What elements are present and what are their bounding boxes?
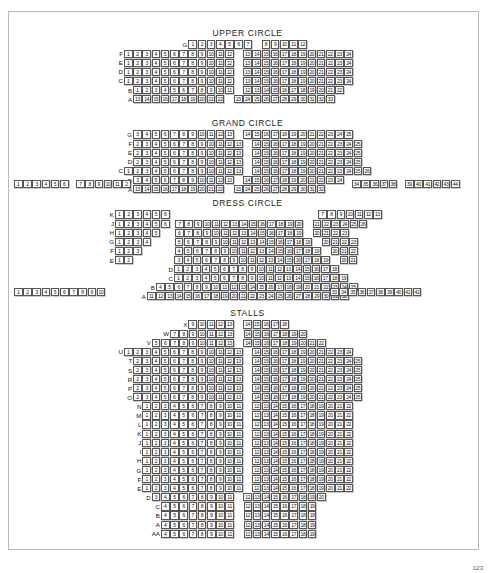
seat[interactable]: 19 (298, 77, 307, 85)
seat[interactable]: 16 (276, 238, 285, 246)
seat[interactable]: 8 (207, 420, 216, 428)
seat[interactable]: 11 (216, 50, 225, 58)
seat[interactable]: 18 (308, 430, 317, 438)
seat[interactable]: 15 (262, 393, 271, 401)
seat[interactable]: 44 (451, 180, 460, 188)
seat[interactable]: 21 (308, 339, 317, 347)
seat[interactable]: 18 (330, 274, 339, 282)
seat[interactable]: 13 (373, 210, 382, 218)
seat[interactable]: 3 (142, 59, 151, 67)
seat[interactable]: 3 (142, 140, 151, 148)
seat[interactable]: 20 (230, 292, 239, 300)
seat[interactable]: 4 (156, 283, 165, 291)
seat[interactable]: 4 (216, 40, 225, 48)
seat[interactable]: 1 (174, 265, 183, 273)
seat[interactable]: 23 (335, 366, 344, 374)
seat[interactable]: 2 (124, 220, 133, 228)
seat[interactable]: 10 (280, 40, 289, 48)
seat[interactable]: 19 (294, 229, 303, 237)
seat[interactable]: 21 (207, 185, 216, 193)
seat[interactable]: 10 (211, 283, 220, 291)
seat[interactable]: 3 (142, 68, 151, 76)
seat[interactable]: 14 (293, 274, 302, 282)
seat[interactable]: 18 (179, 95, 188, 103)
seat[interactable]: 41 (423, 180, 432, 188)
seat[interactable]: 3 (142, 167, 151, 175)
seat[interactable]: 19 (317, 439, 326, 447)
seat[interactable]: 15 (280, 484, 289, 492)
seat[interactable]: 3 (32, 180, 41, 188)
seat[interactable]: 6 (170, 59, 179, 67)
seat[interactable]: 10 (257, 274, 266, 282)
seat[interactable]: 9 (216, 475, 225, 483)
seat[interactable]: 11 (234, 420, 243, 428)
seat[interactable]: 20 (308, 50, 317, 58)
seat[interactable]: 14 (252, 140, 261, 148)
seat[interactable]: 22 (344, 475, 353, 483)
seat[interactable]: 13 (234, 149, 243, 157)
seat[interactable]: 13 (234, 140, 243, 148)
seat[interactable]: 12 (364, 210, 373, 218)
seat[interactable]: 1 (124, 59, 133, 67)
seat[interactable]: 16 (271, 158, 280, 166)
seat[interactable]: 12 (216, 339, 225, 347)
seat[interactable]: 19 (188, 95, 197, 103)
seat[interactable]: 7 (189, 511, 198, 519)
seat[interactable]: 6 (188, 484, 197, 492)
seat[interactable]: 8 (198, 493, 207, 501)
seat[interactable]: 30 (298, 95, 307, 103)
seat[interactable]: 20 (331, 247, 340, 255)
seat[interactable]: 19 (317, 466, 326, 474)
seat[interactable]: 7 (179, 348, 188, 356)
seat[interactable]: 12 (225, 68, 234, 76)
seat[interactable]: 16 (267, 229, 276, 237)
seat[interactable]: 3 (142, 393, 151, 401)
seat[interactable]: 23 (234, 95, 243, 103)
seat[interactable]: 4 (152, 348, 161, 356)
seat[interactable]: 4 (152, 384, 161, 392)
seat[interactable]: 12 (252, 402, 261, 410)
seat[interactable]: 1 (142, 457, 151, 465)
seat[interactable]: 20 (308, 375, 317, 383)
seat[interactable]: 19 (289, 176, 298, 184)
seat[interactable]: 8 (179, 130, 188, 138)
seat[interactable]: 7 (175, 220, 184, 228)
seat[interactable]: 14 (252, 384, 261, 392)
seat[interactable]: 6 (188, 475, 197, 483)
seat[interactable]: 14 (243, 130, 252, 138)
seat[interactable]: 1 (115, 256, 124, 264)
seat[interactable]: 10 (221, 238, 230, 246)
seat[interactable]: 40 (414, 180, 423, 188)
seat[interactable]: 8 (238, 274, 247, 282)
seat[interactable]: 2 (124, 238, 133, 246)
seat[interactable]: 8 (188, 59, 197, 67)
seat[interactable]: 15 (262, 357, 271, 365)
seat[interactable]: 9 (216, 457, 225, 465)
seat[interactable]: 5 (211, 274, 220, 282)
seat[interactable]: 7 (244, 40, 253, 48)
seat[interactable]: 25 (276, 292, 285, 300)
seat[interactable]: 21 (317, 59, 326, 67)
seat[interactable]: 11 (207, 320, 216, 328)
seat[interactable]: 20 (317, 493, 326, 501)
seat[interactable]: 10 (207, 348, 216, 356)
seat[interactable]: 18 (330, 265, 339, 273)
seat[interactable]: 4 (170, 402, 179, 410)
seat[interactable]: 13 (252, 86, 261, 94)
seat[interactable]: 6 (179, 521, 188, 529)
seat[interactable]: 5 (165, 283, 174, 291)
seat[interactable]: 21 (317, 348, 326, 356)
seat[interactable]: 6 (202, 256, 211, 264)
seat[interactable]: 17 (271, 130, 280, 138)
seat[interactable]: 3 (207, 40, 216, 48)
seat[interactable]: 3 (133, 210, 142, 218)
seat[interactable]: 5 (179, 475, 188, 483)
seat[interactable]: 13 (253, 502, 262, 510)
seat[interactable]: 5 (179, 448, 188, 456)
seat[interactable]: 16 (271, 348, 280, 356)
seat[interactable]: 12 (221, 220, 230, 228)
seat[interactable]: 18 (289, 366, 298, 374)
seat[interactable]: 10 (225, 466, 234, 474)
seat[interactable]: 11 (355, 210, 364, 218)
seat[interactable]: 4 (170, 475, 179, 483)
